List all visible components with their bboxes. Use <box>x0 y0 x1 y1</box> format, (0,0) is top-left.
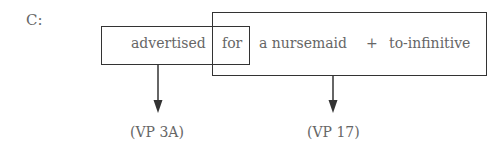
arrows <box>0 0 500 150</box>
arrow-down-icon <box>154 65 163 113</box>
annotation-vp3a: (VP 3A) <box>130 124 184 140</box>
annotation-vp17: (VP 17) <box>307 124 360 140</box>
arrow-down-icon <box>329 76 338 113</box>
